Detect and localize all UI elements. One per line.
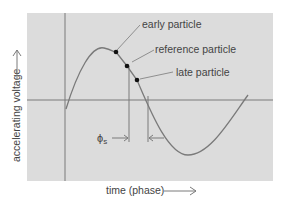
late-particle-label: late particle bbox=[176, 66, 230, 78]
phase-diagram: early particle reference particle late p… bbox=[0, 0, 282, 207]
plot-background bbox=[27, 13, 273, 181]
x-axis-label: time (phase) bbox=[106, 184, 164, 196]
early-particle-label: early particle bbox=[142, 18, 202, 30]
reference-particle-dot bbox=[125, 64, 130, 69]
y-axis-label: accelerating voltage bbox=[10, 68, 22, 162]
reference-particle-label: reference particle bbox=[155, 43, 236, 55]
late-particle-dot bbox=[135, 78, 140, 83]
x-axis-arrow-icon bbox=[164, 187, 196, 195]
early-particle-dot bbox=[114, 50, 119, 55]
